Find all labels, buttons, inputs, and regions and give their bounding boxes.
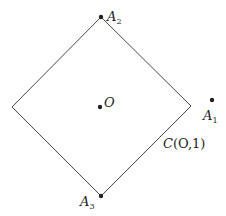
curve-label-args: (O,1)	[173, 136, 205, 151]
point-A1-dot	[210, 98, 214, 102]
point-A3-dot	[99, 194, 103, 198]
points-group: A2A1A3O	[79, 9, 217, 211]
diagram-canvas: A2A1A3O C(O,1)	[0, 0, 226, 216]
curve-label-main: C	[163, 136, 173, 151]
point-A3-label: A3	[79, 194, 94, 211]
point-A2-dot	[99, 15, 103, 19]
curve-label-C-O-1: C(O,1)	[163, 136, 205, 151]
point-O-dot	[98, 105, 102, 109]
point-A1-label: A1	[202, 108, 217, 125]
point-A2-label: A2	[106, 9, 121, 26]
point-O-label: O	[104, 95, 115, 110]
